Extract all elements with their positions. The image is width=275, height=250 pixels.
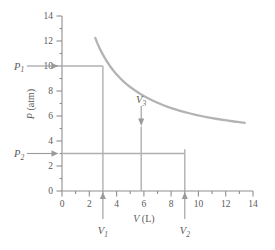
x-tick-label-0: 0 (60, 199, 65, 209)
annotation-v1: V1 (98, 192, 108, 239)
y-tick-label-14: 14 (44, 11, 54, 21)
y-tick-label-2: 2 (48, 161, 53, 171)
annotation-v2: V2 (180, 192, 190, 239)
annotation-v1-label: V1 (98, 225, 108, 239)
x-tick-label-14: 14 (248, 199, 258, 209)
y-tick-label-0: 0 (48, 186, 53, 196)
annotation-p1-subscript: 1 (20, 65, 24, 74)
annotation-v3-subscript: 3 (142, 99, 147, 108)
chart-svg: 0 2 4 6 8 10 12 14 0 2 4 6 8 10 12 14 V … (0, 0, 275, 250)
pressure-volume-chart: 0 2 4 6 8 10 12 14 0 2 4 6 8 10 12 14 V … (0, 0, 275, 250)
x-axis-title-unit: (L) (139, 213, 154, 225)
annotation-v2-arrow-head (182, 192, 188, 199)
annotation-p2-label: P2 (13, 148, 24, 162)
isotherm-curve (95, 38, 245, 123)
annotation-v1-subscript: 1 (104, 230, 108, 239)
x-tick-label-10: 10 (194, 199, 204, 209)
annotation-v1-arrow-head (100, 192, 106, 199)
annotation-v3: V3 (136, 94, 146, 126)
x-tick-label-4: 4 (114, 199, 119, 209)
x-tick-label-2: 2 (87, 199, 92, 209)
y-tick-label-8: 8 (48, 86, 53, 96)
x-tick-label-12: 12 (221, 199, 231, 209)
annotation-p2-arrow-head (52, 150, 59, 156)
y-tick-label-6: 6 (48, 111, 53, 121)
annotation-p2-subscript: 2 (20, 153, 24, 162)
y-axis-ticks (57, 16, 63, 191)
annotation-p1-arrow-head (52, 63, 59, 69)
x-tick-label-6: 6 (142, 199, 147, 209)
y-tick-labels: 0 2 4 6 8 10 12 14 (44, 11, 54, 196)
x-tick-label-8: 8 (169, 199, 174, 209)
y-axis-title-unit: (atm) (25, 89, 37, 113)
y-axis-title-symbol: P (25, 113, 36, 120)
guide-lines-group (62, 66, 185, 191)
y-axis-title: P (atm) (25, 89, 37, 120)
x-axis-title: V (L) (133, 213, 154, 225)
annotation-p1-label: P1 (13, 61, 24, 75)
x-axis-ticks (62, 191, 253, 197)
annotation-v2-subscript: 2 (186, 230, 190, 239)
y-tick-label-4: 4 (48, 136, 53, 146)
y-tick-label-12: 12 (44, 36, 54, 46)
annotation-p2: P2 (13, 148, 58, 162)
x-tick-labels: 0 2 4 6 8 10 12 14 (60, 199, 258, 209)
annotation-v3-arrow-head (138, 119, 144, 127)
annotation-v2-label: V2 (180, 225, 190, 239)
